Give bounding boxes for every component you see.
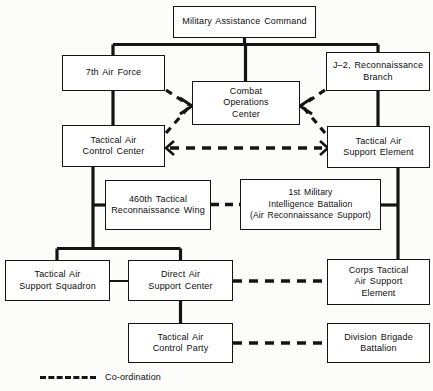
node-tactical-air-control-party[interactable]: Tactical Air Control Party bbox=[128, 323, 233, 363]
org-chart-diagram: Military Assistance Command 7th Air Forc… bbox=[0, 0, 433, 391]
legend-label: Co-ordination bbox=[105, 372, 161, 382]
node-label: Tactical Air Support Squadron bbox=[17, 269, 98, 292]
arrowhead-coc-right bbox=[300, 98, 312, 114]
node-division-brigade-battalion[interactable]: Division Brigade Battalion bbox=[327, 323, 430, 363]
node-military-assistance-command[interactable]: Military Assistance Command bbox=[173, 6, 316, 38]
node-label: Tactical Air Control Party bbox=[151, 332, 211, 355]
node-1st-military-intelligence-battalion[interactable]: 1st Military Intelligence Battalion (Air… bbox=[240, 179, 381, 230]
legend: Co-ordination bbox=[40, 372, 161, 382]
node-tactical-air-support-squadron[interactable]: Tactical Air Support Squadron bbox=[5, 260, 110, 301]
node-label: 7th Air Force bbox=[84, 67, 143, 79]
node-label: 1st Military Intelligence Battalion (Air… bbox=[248, 187, 373, 222]
node-label: J–2, Reconnaissance Branch bbox=[331, 60, 425, 83]
node-7th-air-force[interactable]: 7th Air Force bbox=[62, 55, 165, 91]
node-tactical-air-support-element[interactable]: Tactical Air Support Element bbox=[327, 126, 430, 168]
node-label: Tactical Air Control Center bbox=[81, 135, 147, 158]
node-label: Corps Tactical Air Support Element bbox=[347, 265, 411, 300]
node-combat-operations-center[interactable]: Combat Operations Center bbox=[192, 81, 300, 125]
arrowhead-coc-left bbox=[180, 98, 192, 114]
node-460th-tactical-reconnaissance-wing[interactable]: 460th Tactical Reconnaissance Wing bbox=[105, 180, 211, 230]
node-direct-air-support-center[interactable]: Direct Air Support Center bbox=[128, 260, 233, 301]
node-label: Direct Air Support Center bbox=[146, 269, 214, 292]
node-j2-reconnaissance-branch[interactable]: J–2, Reconnaissance Branch bbox=[326, 52, 430, 91]
node-label: Division Brigade Battalion bbox=[342, 332, 415, 355]
node-label: Combat Operations Center bbox=[221, 86, 271, 121]
legend-dashed-line-swatch bbox=[40, 376, 96, 379]
node-label: Tactical Air Support Element bbox=[341, 136, 416, 159]
node-corps-tactical-air-support-element[interactable]: Corps Tactical Air Support Element bbox=[327, 259, 430, 305]
node-label: Military Assistance Command bbox=[180, 16, 309, 28]
node-tactical-air-control-center[interactable]: Tactical Air Control Center bbox=[62, 125, 165, 167]
node-label: 460th Tactical Reconnaissance Wing bbox=[109, 194, 207, 217]
